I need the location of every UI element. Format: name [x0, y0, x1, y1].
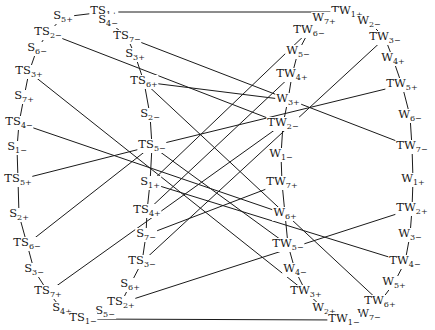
edge-layer — [0, 0, 435, 330]
node-label: S — [125, 46, 133, 60]
node-W5+: W5+ — [381, 276, 407, 290]
node-label: TW — [396, 200, 416, 214]
node-S7-: S7− — [135, 228, 157, 242]
node-TS4-: TS4− — [4, 116, 33, 130]
node-TW2-: TW2− — [266, 117, 299, 131]
node-subscript: 4+ — [296, 73, 308, 82]
node-S7+: S7+ — [13, 90, 35, 104]
node-label: TW — [293, 22, 313, 36]
node-subscript: 5− — [292, 243, 304, 252]
node-label: TS — [138, 137, 154, 151]
node-S6+: S6+ — [119, 278, 141, 292]
node-S1+: S1+ — [139, 176, 161, 190]
node-TS5-: TS5− — [137, 139, 166, 153]
node-label: TW — [364, 293, 384, 307]
node-subscript: 3− — [32, 268, 44, 277]
node-label: TW — [290, 283, 310, 297]
node-subscript: 6+ — [384, 300, 396, 309]
node-subscript: 3− — [410, 233, 422, 242]
node-subscript: 4+ — [393, 57, 405, 66]
node-subscript: 1− — [281, 153, 293, 162]
node-subscript: 2− — [369, 20, 381, 29]
edge-TS3--TW3- — [142, 38, 385, 262]
node-subscript: 5+ — [394, 281, 406, 290]
node-W1-: W1− — [268, 148, 294, 162]
node-label: TW — [266, 174, 286, 188]
node-label: S — [52, 300, 60, 314]
node-label: TS — [113, 28, 129, 42]
node-label: W — [401, 171, 413, 185]
node-W6-: W6− — [397, 109, 423, 123]
node-subscript: 2+ — [416, 207, 428, 216]
node-label: TS — [13, 235, 29, 249]
node-subscript: 5− — [103, 310, 115, 319]
node-W4+: W4+ — [380, 52, 406, 66]
node-label: TW — [272, 236, 292, 250]
node-W4-: W4− — [282, 263, 308, 277]
node-TW2+: TW2+ — [395, 202, 428, 216]
node-W6+: W6+ — [272, 207, 298, 221]
edge-TS2+-TW2+ — [121, 209, 412, 303]
node-label: W — [398, 226, 410, 240]
node-W3-: W3− — [397, 228, 423, 242]
node-subscript: 1+ — [148, 181, 160, 190]
edge-TS6--TS5- — [27, 146, 152, 244]
node-TW5+: TW5+ — [385, 78, 418, 92]
edge-TS1--TW1- — [83, 319, 344, 320]
node-TS3+: TS3+ — [14, 65, 43, 79]
node-S4-: S4− — [97, 14, 119, 28]
node-label: TS — [34, 24, 50, 38]
node-TS4+: TS4+ — [132, 204, 161, 218]
node-TW7-: TW7− — [395, 140, 428, 154]
node-subscript: 5+ — [406, 83, 418, 92]
node-TW4+: TW4+ — [275, 68, 308, 82]
node-subscript: 6+ — [285, 212, 297, 221]
node-subscript: 4− — [295, 268, 307, 277]
node-label: TS — [69, 310, 85, 324]
node-W1+: W1+ — [400, 173, 426, 187]
node-label: W — [398, 107, 410, 121]
node-label: TS — [4, 171, 20, 185]
node-label: TS — [5, 114, 21, 128]
node-TS2-: TS2− — [33, 26, 62, 40]
node-subscript: 7+ — [50, 290, 62, 299]
node-label: S — [7, 139, 15, 153]
node-TW7+: TW7+ — [265, 176, 298, 190]
group-graph-diagram: TS1+S5+S4−TS2−TS7−S6−S3+TS3+TS6+S7+S2−TS… — [0, 0, 435, 330]
node-subscript: 1− — [348, 318, 360, 327]
node-subscript: 1− — [15, 146, 27, 155]
node-label: TS — [128, 253, 144, 267]
node-label: TW — [276, 66, 296, 80]
node-subscript: 3+ — [31, 70, 43, 79]
node-subscript: 5+ — [20, 178, 32, 187]
node-subscript: 2− — [148, 113, 160, 122]
node-W3+: W3+ — [275, 93, 301, 107]
node-S2+: S2+ — [8, 208, 30, 222]
node-label: TS — [15, 63, 31, 77]
node-label: S — [14, 88, 22, 102]
node-subscript: 7+ — [324, 17, 336, 26]
node-subscript: 1+ — [413, 178, 425, 187]
node-label: S — [140, 174, 148, 188]
node-TW1-: TW1− — [327, 313, 360, 327]
node-subscript: 5− — [154, 144, 166, 153]
node-label: TS — [130, 73, 146, 87]
node-label: TW — [389, 253, 409, 267]
node-subscript: 3+ — [310, 290, 322, 299]
node-subscript: 7− — [416, 145, 428, 154]
node-label: TW — [267, 115, 287, 129]
node-label: W — [357, 13, 369, 27]
node-subscript: 3− — [389, 36, 401, 45]
node-label: W — [269, 146, 281, 160]
node-label: S — [140, 106, 148, 120]
edge-TS5+-TS5- — [18, 146, 152, 180]
node-TS7+: TS7+ — [33, 285, 62, 299]
node-subscript: 6+ — [146, 80, 158, 89]
node-label: W — [381, 50, 393, 64]
node-label: W — [312, 300, 324, 314]
node-subscript: 4+ — [149, 209, 161, 218]
node-S1-: S1− — [6, 141, 28, 155]
node-TS3-: TS3− — [127, 255, 156, 269]
node-W5-: W5− — [285, 45, 311, 59]
node-S6-: S6− — [26, 42, 48, 56]
